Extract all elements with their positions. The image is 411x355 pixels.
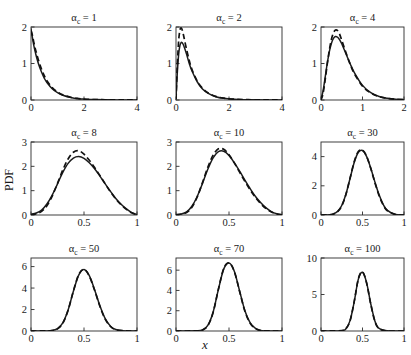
- y-tick-label: 2: [312, 180, 317, 191]
- x-tick-label: 0: [173, 333, 178, 344]
- x-tick-label: 2: [401, 102, 406, 113]
- y-tick-label: 2: [167, 22, 172, 33]
- y-tick-label: 0: [22, 210, 27, 221]
- y-tick-label: 4: [312, 151, 318, 162]
- x-tick-label: 1: [401, 217, 406, 228]
- y-tick-label: 4: [167, 285, 173, 296]
- y-tick-label: 10: [307, 253, 318, 264]
- y-tick-label: 0: [22, 326, 27, 337]
- y-tick-label: 2: [312, 22, 317, 33]
- y-tick-label: 2: [22, 161, 27, 172]
- x-tick-label: 0: [28, 217, 33, 228]
- y-tick-label: 0: [22, 95, 27, 106]
- x-tick-label: 0.5: [356, 333, 369, 344]
- x-tick-label: 0.5: [356, 217, 369, 228]
- pdf-panel-grid-figure: αc = 1024012αc = 2024012αc = 4012012αc =…: [0, 0, 411, 355]
- y-tick-label: 0: [312, 326, 317, 337]
- y-tick-label: 2: [167, 161, 172, 172]
- x-tick-label: 1: [360, 102, 365, 113]
- y-tick-label: 4: [22, 283, 28, 294]
- y-tick-label: 6: [22, 261, 27, 272]
- y-tick-label: 1: [167, 58, 172, 69]
- x-tick-label: 2: [81, 102, 86, 113]
- x-tick-label: 0: [28, 102, 33, 113]
- y-tick-label: 0: [312, 210, 317, 221]
- y-tick-label: 0: [167, 326, 172, 337]
- x-axis-label: x: [201, 337, 208, 352]
- x-tick-label: 4: [134, 102, 140, 113]
- y-tick-label: 6: [167, 265, 172, 276]
- x-tick-label: 1: [279, 333, 284, 344]
- y-tick-label: 0: [312, 95, 317, 106]
- x-tick-label: 0: [318, 102, 323, 113]
- x-tick-label: 0: [173, 217, 178, 228]
- x-tick-label: 0.5: [77, 217, 90, 228]
- x-tick-label: 0: [318, 217, 323, 228]
- x-tick-label: 0.5: [222, 217, 235, 228]
- x-tick-label: 0.5: [77, 333, 90, 344]
- y-tick-label: 3: [22, 137, 27, 148]
- y-tick-label: 2: [167, 305, 172, 316]
- y-tick-label: 0: [167, 95, 172, 106]
- y-tick-label: 2: [22, 304, 27, 315]
- x-tick-label: 4: [279, 102, 285, 113]
- y-tick-label: 1: [312, 58, 317, 69]
- x-tick-label: 1: [134, 217, 139, 228]
- x-tick-label: 1: [134, 333, 139, 344]
- x-tick-label: 0: [318, 333, 323, 344]
- y-tick-label: 1: [22, 185, 27, 196]
- x-tick-label: 0.5: [222, 333, 235, 344]
- y-tick-label: 1: [22, 58, 27, 69]
- x-tick-label: 2: [226, 102, 231, 113]
- y-tick-label: 1: [167, 185, 172, 196]
- x-tick-label: 0: [173, 102, 178, 113]
- x-tick-label: 1: [401, 333, 406, 344]
- x-tick-label: 0: [28, 333, 33, 344]
- y-tick-label: 5: [312, 289, 317, 300]
- y-axis-label: PDF: [2, 169, 16, 191]
- y-tick-label: 3: [167, 137, 172, 148]
- y-tick-label: 0: [167, 210, 172, 221]
- y-tick-label: 2: [22, 22, 27, 33]
- x-tick-label: 1: [279, 217, 284, 228]
